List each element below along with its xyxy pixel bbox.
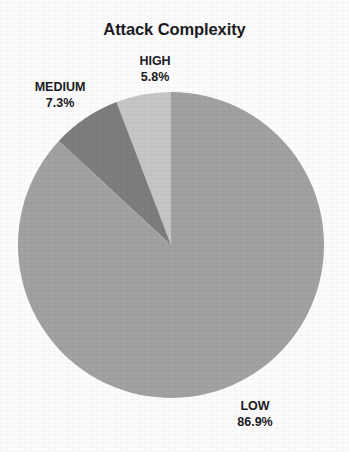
slice-label-medium-percent: 7.3% (10, 96, 110, 112)
slice-label-high: HIGH 5.8% (105, 54, 205, 85)
slice-label-high-name: HIGH (105, 54, 205, 70)
slice-label-low-name: LOW (205, 399, 305, 415)
slice-label-low-percent: 86.9% (205, 415, 305, 431)
pie-chart-graphic (18, 92, 324, 398)
slice-label-high-percent: 5.8% (105, 70, 205, 86)
slice-label-medium: MEDIUM 7.3% (10, 80, 110, 111)
slice-label-low: LOW 86.9% (205, 399, 305, 430)
slice-label-medium-name: MEDIUM (10, 80, 110, 96)
pie-chart-figure: Attack Complexity HIGH 5.8% MEDIUM 7.3% … (0, 0, 349, 452)
chart-title: Attack Complexity (0, 20, 349, 39)
